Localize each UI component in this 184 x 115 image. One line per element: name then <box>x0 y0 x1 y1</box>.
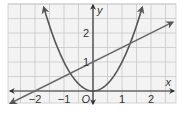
coordinate-graph: −2−11212Oxy <box>0 0 184 115</box>
origin-label: O <box>81 93 90 105</box>
x-axis-label: x <box>165 76 172 88</box>
y-tick-label: 1 <box>83 56 89 68</box>
x-tick-label: −2 <box>29 93 42 105</box>
y-tick-label: 2 <box>83 27 89 39</box>
x-tick-label: 1 <box>119 93 125 105</box>
x-tick-label: −1 <box>58 93 71 105</box>
x-tick-label: 2 <box>148 93 154 105</box>
